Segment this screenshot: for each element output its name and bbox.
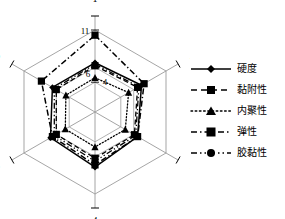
data-point-circle <box>51 133 57 139</box>
data-point-square <box>38 78 45 85</box>
series-内聚性 <box>62 74 133 150</box>
chart-legend: 硬度 黏附性 内聚性 弹性 <box>190 58 285 168</box>
axis-label-1: 1 <box>93 0 98 4</box>
legend-sample-dashed-square <box>190 83 232 97</box>
data-point-circle <box>136 84 142 90</box>
axis-tick-5 <box>10 157 14 164</box>
legend-item-adhesiveness: 黏附性 <box>190 79 285 100</box>
legend-sample-solid-diamond <box>190 62 232 76</box>
legend-label-gumminess: 胶黏性 <box>237 148 267 158</box>
axis-tick-2 <box>176 61 180 68</box>
radar-plot-area: 1234564611 <box>0 0 190 219</box>
legend-item-springiness: 弹性 <box>190 121 285 142</box>
data-point-triangle <box>91 143 98 150</box>
data-point-triangle <box>122 126 129 133</box>
radar-svg: 1234564611 <box>0 0 190 219</box>
data-point-circle <box>92 158 98 164</box>
legend-sample-dotted-triangle <box>190 104 232 118</box>
radar-chart-figure: 1234564611 硬度 黏附性 内聚性 <box>0 0 285 219</box>
legend-label-springiness: 弹性 <box>237 127 257 137</box>
axis-tick-6 <box>10 61 14 68</box>
legend-item-cohesiveness: 内聚性 <box>190 100 285 121</box>
data-point-circle <box>51 86 57 92</box>
series-line-内聚性 <box>65 78 128 147</box>
data-point-triangle <box>91 74 98 81</box>
data-point-circle <box>133 133 139 139</box>
data-point-square <box>91 32 98 39</box>
data-point-circle <box>92 61 98 67</box>
legend-item-hardness: 硬度 <box>190 58 285 79</box>
legend-sample-dashdotdot-circle <box>190 146 232 160</box>
legend-sample-dashdot-square <box>190 125 232 139</box>
radial-tick-label-11: 11 <box>81 26 90 36</box>
data-point-triangle <box>125 89 132 96</box>
axis-tick-3 <box>176 157 180 164</box>
data-point-triangle <box>62 91 69 98</box>
data-point-triangle <box>62 125 69 132</box>
legend-label-hardness: 硬度 <box>237 64 257 74</box>
legend-label-adhesiveness: 黏附性 <box>237 85 267 95</box>
legend-item-gumminess: 胶黏性 <box>190 142 285 163</box>
axis-label-4: 4 <box>93 215 98 219</box>
legend-label-cohesiveness: 内聚性 <box>237 106 267 116</box>
